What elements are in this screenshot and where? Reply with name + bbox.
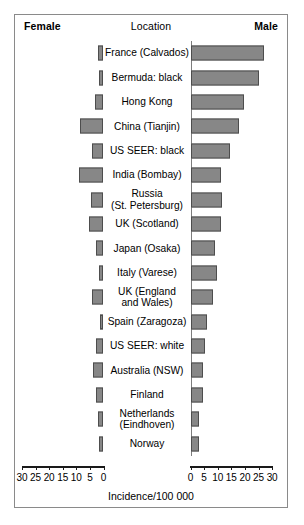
axis-tick bbox=[204, 466, 205, 470]
table-row: Netherlands (Eindhoven) bbox=[15, 407, 287, 431]
axis-tick-label: 10 bbox=[212, 472, 223, 483]
location-label: Bermuda: black bbox=[103, 65, 191, 89]
axis-tick bbox=[76, 466, 77, 470]
female-bar bbox=[91, 192, 103, 207]
axis-tick-label: 15 bbox=[57, 472, 68, 483]
location-label: India (Bombay) bbox=[103, 163, 191, 187]
location-label: Norway bbox=[103, 432, 191, 456]
male-bar bbox=[191, 314, 207, 329]
female-bar bbox=[96, 387, 103, 402]
table-row: US SEER: black bbox=[15, 139, 287, 163]
male-bar bbox=[191, 265, 217, 280]
axis-tick bbox=[231, 466, 232, 470]
female-bar bbox=[96, 339, 103, 354]
location-label: UK (England and Wales) bbox=[103, 285, 191, 309]
axis-title: Incidence/100 000 bbox=[15, 490, 287, 502]
female-bar bbox=[89, 217, 103, 232]
axis-tick bbox=[49, 466, 50, 470]
axis-tick-label: 0 bbox=[101, 472, 106, 483]
location-label: China (Tianjin) bbox=[103, 114, 191, 138]
table-row: Spain (Zaragoza) bbox=[15, 309, 287, 333]
female-bar bbox=[92, 143, 103, 158]
location-label: Hong Kong bbox=[103, 90, 191, 114]
male-bar bbox=[191, 436, 199, 451]
axis-tick-label: 20 bbox=[44, 472, 55, 483]
table-row: Australia (NSW) bbox=[15, 358, 287, 382]
male-bar bbox=[191, 119, 239, 134]
table-row: Bermuda: black bbox=[15, 65, 287, 89]
axis-tick bbox=[36, 466, 37, 470]
male-bar bbox=[191, 168, 221, 183]
male-bar bbox=[191, 217, 221, 232]
female-bar bbox=[95, 95, 103, 110]
location-label: UK (Scotland) bbox=[103, 212, 191, 236]
table-row: Russia (St. Petersburg) bbox=[15, 187, 287, 211]
location-label: Japan (Osaka) bbox=[103, 236, 191, 260]
axis-tick bbox=[191, 466, 192, 470]
location-label: Australia (NSW) bbox=[103, 358, 191, 382]
axis-tick-label: 30 bbox=[16, 472, 27, 483]
axes: 051015202530 051015202530 Incidence/100 … bbox=[15, 466, 287, 508]
location-label: Finland bbox=[103, 383, 191, 407]
female-bar bbox=[96, 241, 103, 256]
axis-tick-label: 5 bbox=[201, 472, 206, 483]
location-label: Russia (St. Petersburg) bbox=[103, 187, 191, 211]
axis-tick bbox=[104, 466, 105, 470]
table-row: Norway bbox=[15, 432, 287, 456]
location-header-label: Location bbox=[15, 20, 287, 32]
axis-tick bbox=[90, 466, 91, 470]
table-row: Hong Kong bbox=[15, 90, 287, 114]
male-bar bbox=[191, 363, 203, 378]
axis-tick-label: 10 bbox=[71, 472, 82, 483]
axis-tick-label: 25 bbox=[253, 472, 264, 483]
table-row: Italy (Varese) bbox=[15, 261, 287, 285]
female-bar bbox=[80, 119, 103, 134]
male-bar bbox=[191, 192, 222, 207]
axis-tick-label: 25 bbox=[30, 472, 41, 483]
male-bar bbox=[191, 143, 230, 158]
axis-tick-label: 30 bbox=[267, 472, 278, 483]
male-bar bbox=[191, 339, 205, 354]
location-label: Netherlands (Eindhoven) bbox=[103, 407, 191, 431]
male-bar bbox=[191, 387, 203, 402]
male-bar bbox=[191, 95, 244, 110]
male-bar bbox=[191, 241, 215, 256]
axis-tick bbox=[259, 466, 260, 470]
table-row: China (Tianjin) bbox=[15, 114, 287, 138]
plot-area: France (Calvados)Bermuda: blackHong Kong… bbox=[15, 41, 287, 466]
location-label: US SEER: white bbox=[103, 334, 191, 358]
location-label: US SEER: black bbox=[103, 139, 191, 163]
female-bar bbox=[92, 290, 103, 305]
table-row: US SEER: white bbox=[15, 334, 287, 358]
table-row: Finland bbox=[15, 383, 287, 407]
table-row: UK (England and Wales) bbox=[15, 285, 287, 309]
location-label: France (Calvados) bbox=[103, 41, 191, 65]
table-row: Japan (Osaka) bbox=[15, 236, 287, 260]
female-bar bbox=[79, 168, 103, 183]
location-label: Spain (Zaragoza) bbox=[103, 309, 191, 333]
axis-tick-label: 15 bbox=[226, 472, 237, 483]
table-row: India (Bombay) bbox=[15, 163, 287, 187]
table-row: France (Calvados) bbox=[15, 41, 287, 65]
male-bar bbox=[191, 46, 264, 61]
axis-tick-label: 5 bbox=[87, 472, 92, 483]
axis-tick-label: 20 bbox=[239, 472, 250, 483]
table-row: UK (Scotland) bbox=[15, 212, 287, 236]
female-bar bbox=[93, 363, 103, 378]
location-label: Italy (Varese) bbox=[103, 261, 191, 285]
axis-tick-label: 0 bbox=[188, 472, 193, 483]
male-header-label: Male bbox=[254, 20, 278, 32]
axis-tick bbox=[63, 466, 64, 470]
chart-figure: Female Location Male France (Calvados)Be… bbox=[14, 14, 288, 508]
axis-tick bbox=[245, 466, 246, 470]
axis-tick bbox=[22, 466, 23, 470]
chart-header: Female Location Male bbox=[15, 15, 287, 41]
axis-tick bbox=[218, 466, 219, 470]
male-bar bbox=[191, 412, 199, 427]
bar-rows: France (Calvados)Bermuda: blackHong Kong… bbox=[15, 41, 287, 466]
male-bar bbox=[191, 70, 259, 85]
axis-tick bbox=[272, 466, 273, 470]
male-bar bbox=[191, 290, 213, 305]
